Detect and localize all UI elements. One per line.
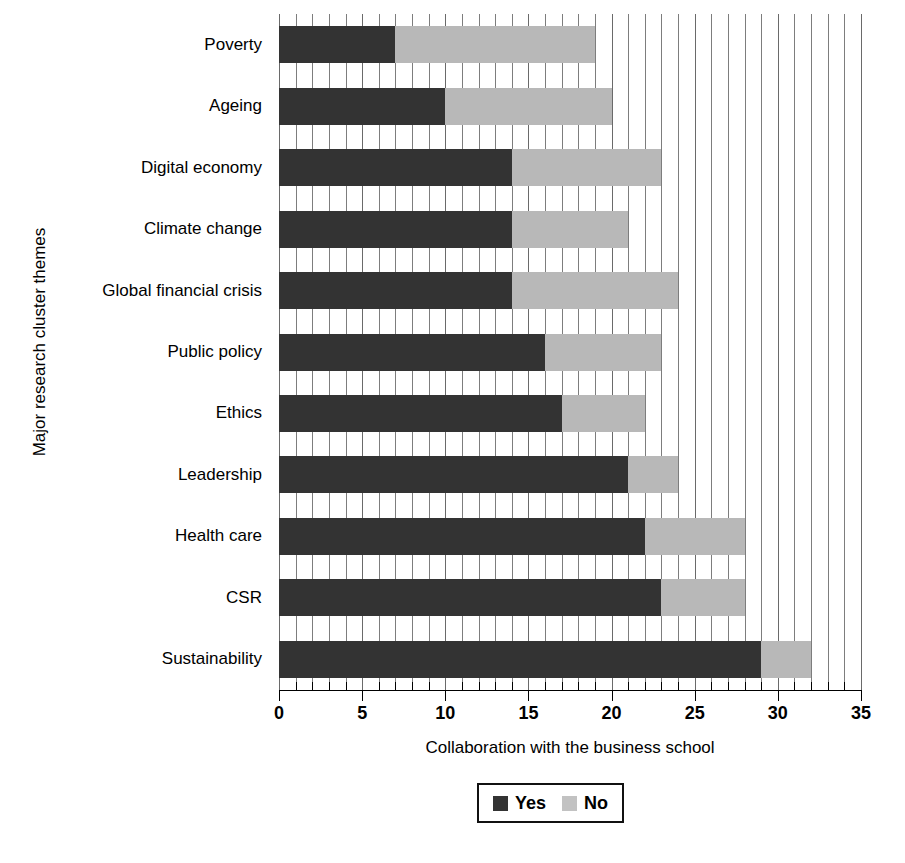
- bar-row[interactable]: [279, 334, 861, 371]
- category-label: Climate change: [32, 219, 262, 239]
- x-tick-minor: [794, 682, 795, 690]
- category-label: Sustainability: [32, 649, 262, 669]
- bar-segment-no[interactable]: [761, 641, 811, 678]
- bar-segment-no[interactable]: [512, 272, 678, 309]
- bar-row[interactable]: [279, 88, 861, 125]
- bar-segment-yes[interactable]: [279, 579, 661, 616]
- x-tick-minor: [346, 682, 347, 690]
- x-tick-minor: [462, 682, 463, 690]
- x-tick-minor: [545, 682, 546, 690]
- bar-row[interactable]: [279, 518, 861, 555]
- bar-segment-no[interactable]: [645, 518, 745, 555]
- x-tick-major: [612, 690, 613, 701]
- category-label: Leadership: [32, 465, 262, 485]
- x-tick-minor: [678, 682, 679, 690]
- x-tick-major: [362, 690, 363, 701]
- x-tick-label: 35: [831, 703, 891, 724]
- bar-segment-no[interactable]: [445, 88, 611, 125]
- bar-segment-no[interactable]: [661, 579, 744, 616]
- x-tick-minor: [395, 682, 396, 690]
- legend-entry[interactable]: No: [562, 794, 608, 812]
- x-tick-minor: [512, 682, 513, 690]
- bar-segment-yes[interactable]: [279, 26, 395, 63]
- chart-figure: Major research cluster themes PovertyAge…: [0, 0, 905, 863]
- x-tick-minor: [645, 682, 646, 690]
- x-tick-minor: [412, 682, 413, 690]
- category-label: Health care: [32, 526, 262, 546]
- x-tick-minor: [711, 682, 712, 690]
- bar-row[interactable]: [279, 641, 861, 678]
- bar-segment-yes[interactable]: [279, 641, 761, 678]
- bar-row[interactable]: [279, 272, 861, 309]
- category-label: Digital economy: [32, 158, 262, 178]
- bar-segment-yes[interactable]: [279, 272, 512, 309]
- x-tick-minor: [495, 682, 496, 690]
- x-axis-line: [279, 690, 861, 691]
- x-tick-minor: [296, 682, 297, 690]
- bar-series-group: [279, 14, 861, 690]
- x-tick-minor: [479, 682, 480, 690]
- x-tick-minor: [844, 682, 845, 690]
- x-tick-label: 15: [498, 703, 558, 724]
- x-tick-minor: [828, 682, 829, 690]
- bar-segment-yes[interactable]: [279, 518, 645, 555]
- x-tick-minor: [429, 682, 430, 690]
- x-tick-label: 0: [249, 703, 309, 724]
- x-tick-minor: [379, 682, 380, 690]
- legend-entry[interactable]: Yes: [493, 794, 546, 812]
- x-tick-major: [528, 690, 529, 701]
- legend-label: No: [584, 794, 608, 812]
- gridline: [861, 14, 862, 690]
- legend-label: Yes: [515, 794, 546, 812]
- legend-swatch-icon: [562, 796, 577, 811]
- x-tick-minor: [761, 682, 762, 690]
- x-tick-minor: [745, 682, 746, 690]
- x-tick-minor: [628, 682, 629, 690]
- x-tick-major: [861, 690, 862, 701]
- bar-segment-yes[interactable]: [279, 334, 545, 371]
- plot-area: [279, 14, 861, 690]
- bar-segment-yes[interactable]: [279, 395, 562, 432]
- x-tick-label: 25: [665, 703, 725, 724]
- bar-row[interactable]: [279, 579, 861, 616]
- bar-segment-yes[interactable]: [279, 456, 628, 493]
- x-tick-major: [778, 690, 779, 701]
- bar-segment-no[interactable]: [562, 395, 645, 432]
- x-tick-minor: [811, 682, 812, 690]
- x-tick-major: [279, 690, 280, 701]
- bar-segment-no[interactable]: [512, 149, 662, 186]
- bar-row[interactable]: [279, 26, 861, 63]
- x-tick-minor: [595, 682, 596, 690]
- category-label: Global financial crisis: [32, 281, 262, 301]
- bar-row[interactable]: [279, 395, 861, 432]
- bar-segment-yes[interactable]: [279, 211, 512, 248]
- category-label: Poverty: [32, 35, 262, 55]
- x-tick-minor: [329, 682, 330, 690]
- x-tick-minor: [578, 682, 579, 690]
- bar-row[interactable]: [279, 149, 861, 186]
- category-label: CSR: [32, 588, 262, 608]
- x-tick-major: [445, 690, 446, 701]
- x-tick-minor: [728, 682, 729, 690]
- bar-segment-yes[interactable]: [279, 88, 445, 125]
- y-axis-category-labels: PovertyAgeingDigital economyClimate chan…: [40, 14, 270, 690]
- x-tick-label: 10: [415, 703, 475, 724]
- x-tick-minor: [562, 682, 563, 690]
- x-tick-major: [695, 690, 696, 701]
- x-axis-title: Collaboration with the business school: [279, 738, 861, 758]
- bar-row[interactable]: [279, 211, 861, 248]
- bar-row[interactable]: [279, 456, 861, 493]
- bar-segment-no[interactable]: [395, 26, 595, 63]
- legend-swatch-icon: [493, 796, 508, 811]
- bar-segment-no[interactable]: [545, 334, 661, 371]
- x-tick-minor: [661, 682, 662, 690]
- x-tick-label: 30: [748, 703, 808, 724]
- category-label: Public policy: [32, 342, 262, 362]
- bar-segment-yes[interactable]: [279, 149, 512, 186]
- chart-legend: YesNo: [477, 783, 624, 823]
- x-tick-label: 20: [582, 703, 642, 724]
- bar-segment-no[interactable]: [628, 456, 678, 493]
- bar-segment-no[interactable]: [512, 211, 628, 248]
- x-tick-minor: [312, 682, 313, 690]
- category-label: Ethics: [32, 403, 262, 423]
